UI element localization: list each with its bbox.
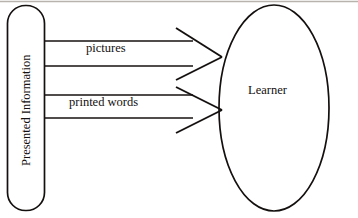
printed-words-channel-label: printed words [69,96,138,109]
printed-words-arrow [45,87,222,133]
diagram-graphics [0,0,358,218]
printed-words-arrowhead-lower [176,110,222,133]
learner-label: Learner [248,84,287,97]
learner-ellipse [219,5,329,211]
pictures-arrowhead-lower [176,57,222,80]
pictures-arrow [45,28,222,80]
printed-words-arrowhead-upper [176,87,222,110]
pictures-arrowhead-upper [176,28,222,57]
diagram-canvas: Presented Information pictures printed w… [0,0,358,218]
pictures-channel-label: pictures [86,42,126,55]
presented-information-label: Presented Information [20,46,33,174]
